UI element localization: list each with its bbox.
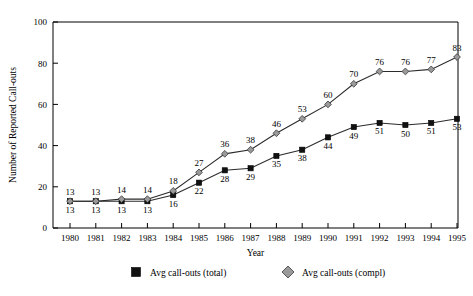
y-axis-tick-label: 100: [34, 17, 48, 27]
data-point-marker: [222, 168, 227, 173]
data-point-label: 14: [117, 185, 127, 195]
data-point-label: 14: [143, 185, 153, 195]
data-point-label: 13: [143, 205, 153, 215]
data-point-label: 51: [375, 126, 384, 136]
data-point-label: 60: [324, 90, 334, 100]
data-point-label: 13: [91, 205, 101, 215]
data-point-label: 50: [401, 129, 411, 139]
y-axis-tick-label: 20: [38, 182, 48, 192]
series-line: [70, 119, 457, 201]
data-point-marker: [376, 68, 383, 75]
legend-marker-diamond: [282, 266, 294, 278]
data-point-label: 38: [298, 153, 308, 163]
x-axis-tick-label: 1991: [345, 233, 363, 243]
x-axis-tick-label: 1989: [293, 233, 312, 243]
y-axis-title: Number of Reported Call-outs: [8, 67, 18, 183]
data-point-marker: [429, 120, 434, 125]
line-chart: 0204060801001980198119821983198419851986…: [0, 0, 473, 296]
data-point-marker: [454, 116, 459, 121]
x-axis-tick-label: 1993: [396, 233, 415, 243]
data-point-marker: [247, 146, 254, 153]
data-point-marker: [454, 54, 461, 61]
x-axis-tick-label: 1984: [164, 233, 183, 243]
legend-marker-square: [132, 268, 141, 277]
data-point-marker: [300, 147, 305, 152]
data-point-marker: [402, 68, 409, 75]
x-axis-tick-label: 1995: [448, 233, 467, 243]
data-point-label: 36: [220, 139, 230, 149]
data-point-marker: [196, 180, 201, 185]
data-point-marker: [325, 135, 330, 140]
data-point-marker: [351, 124, 356, 129]
data-point-label: 28: [220, 174, 230, 184]
x-axis-tick-label: 1987: [242, 233, 261, 243]
y-axis-tick-label: 60: [38, 100, 48, 110]
x-axis-tick-label: 1994: [422, 233, 441, 243]
x-axis-tick-label: 1985: [190, 233, 209, 243]
x-axis-tick-label: 1988: [267, 233, 286, 243]
legend-label: Avg call-outs (compl): [302, 268, 385, 279]
data-point-label: 29: [246, 172, 256, 182]
y-axis-tick-label: 40: [38, 141, 48, 151]
x-axis-tick-label: 1983: [138, 233, 157, 243]
data-point-label: 13: [91, 187, 101, 197]
data-point-marker: [274, 153, 279, 158]
data-point-label: 27: [195, 158, 205, 168]
data-point-label: 46: [272, 119, 282, 129]
data-point-marker: [273, 130, 280, 137]
y-axis-tick-label: 80: [38, 59, 48, 69]
data-point-label: 83: [453, 43, 463, 53]
y-axis-tick-label: 0: [43, 223, 48, 233]
data-point-label: 13: [66, 205, 76, 215]
data-point-marker: [403, 122, 408, 127]
x-axis-tick-label: 1982: [113, 233, 131, 243]
data-point-label: 38: [246, 135, 256, 145]
data-point-label: 70: [349, 69, 359, 79]
data-point-marker: [377, 120, 382, 125]
data-point-label: 51: [427, 126, 436, 136]
legend-label: Avg call-outs (total): [150, 268, 226, 279]
data-point-label: 76: [375, 57, 385, 67]
data-point-marker: [248, 166, 253, 171]
data-point-marker: [428, 66, 435, 73]
x-axis-tick-label: 1980: [61, 233, 80, 243]
data-point-label: 13: [117, 205, 127, 215]
data-point-label: 16: [169, 199, 179, 209]
data-point-label: 77: [427, 55, 437, 65]
data-point-label: 22: [195, 186, 204, 196]
x-axis-tick-label: 1990: [319, 233, 338, 243]
data-point-label: 13: [66, 187, 76, 197]
x-axis-tick-label: 1986: [216, 233, 235, 243]
x-axis-tick-label: 1981: [87, 233, 105, 243]
data-point-label: 49: [349, 131, 359, 141]
data-point-label: 76: [401, 57, 411, 67]
data-point-label: 53: [453, 122, 463, 132]
chart-container: 0204060801001980198119821983198419851986…: [0, 0, 473, 296]
x-axis-tick-label: 1992: [371, 233, 389, 243]
x-axis-title: Year: [247, 248, 265, 258]
data-point-label: 44: [324, 141, 334, 151]
data-point-marker: [299, 115, 306, 122]
data-point-label: 53: [298, 104, 308, 114]
plot-frame: [53, 22, 458, 228]
data-point-label: 18: [169, 176, 179, 186]
data-point-label: 35: [272, 159, 282, 169]
series-line: [70, 57, 457, 201]
